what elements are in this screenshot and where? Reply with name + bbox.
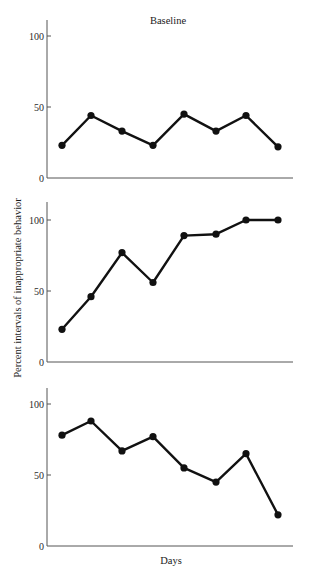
- data-point-marker: [58, 432, 65, 439]
- data-series-line: [62, 220, 278, 329]
- panel-title: Baseline: [150, 15, 186, 26]
- data-point-marker: [180, 464, 187, 471]
- y-tick-label: 50: [34, 470, 44, 481]
- data-point-marker: [242, 450, 249, 457]
- data-point-marker: [212, 479, 219, 486]
- data-point-marker: [58, 142, 65, 149]
- data-point-marker: [242, 216, 249, 223]
- y-tick-label: 0: [39, 173, 44, 184]
- y-tick-label: 0: [39, 357, 44, 368]
- chart-figure: 050100Baseline050100050100 Days Percent …: [0, 0, 312, 575]
- data-point-marker: [149, 433, 156, 440]
- x-axis-title: Days: [160, 555, 182, 566]
- data-point-marker: [274, 216, 281, 223]
- chart-panel-1: 050100Baseline: [29, 15, 293, 184]
- data-point-marker: [180, 111, 187, 118]
- chart-panel-3: 050100: [29, 388, 293, 552]
- data-point-marker: [118, 447, 125, 454]
- y-tick-label: 100: [29, 215, 44, 226]
- data-point-marker: [58, 326, 65, 333]
- y-tick-label: 0: [39, 541, 44, 552]
- data-point-marker: [118, 249, 125, 256]
- chart-panel-2: 050100: [29, 202, 293, 368]
- data-point-marker: [149, 142, 156, 149]
- data-point-marker: [180, 232, 187, 239]
- y-tick-label: 100: [29, 399, 44, 410]
- panels-group: 050100Baseline050100050100: [29, 15, 293, 552]
- data-point-marker: [118, 128, 125, 135]
- data-series-line: [62, 421, 278, 515]
- data-point-marker: [274, 143, 281, 150]
- data-point-marker: [87, 112, 94, 119]
- y-tick-label: 50: [34, 102, 44, 113]
- data-point-marker: [242, 112, 249, 119]
- y-axis-title: Percent intervals of inappropriate behav…: [12, 198, 23, 378]
- data-point-marker: [212, 231, 219, 238]
- data-point-marker: [87, 293, 94, 300]
- data-point-marker: [212, 128, 219, 135]
- y-tick-label: 100: [29, 31, 44, 42]
- data-point-marker: [87, 417, 94, 424]
- y-tick-label: 50: [34, 286, 44, 297]
- data-point-marker: [274, 511, 281, 518]
- data-point-marker: [149, 279, 156, 286]
